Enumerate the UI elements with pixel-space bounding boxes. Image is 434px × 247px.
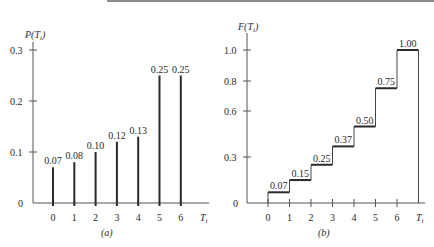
value-label: 0.25	[151, 64, 169, 75]
y-tick-label: 1.0	[224, 45, 237, 56]
x-tick-label: 0	[266, 212, 271, 223]
x-tick-label: 1	[287, 212, 292, 223]
value-label: 0.25	[313, 153, 331, 164]
figure: P(Ti) 0.30.20.1 0 0.070.080.100.120.130.…	[0, 0, 434, 247]
chart-a: P(Ti) 0.30.20.1 0 0.070.080.100.120.130.…	[10, 29, 209, 239]
x-tick-label: 0	[51, 212, 56, 223]
y-axis-title-b: F(Ti)	[237, 21, 259, 34]
value-label: 0.37	[335, 134, 353, 145]
x-tick-label: 5	[157, 212, 162, 223]
stems-a: 0.070.080.100.120.130.250.25	[44, 64, 189, 207]
value-label: 0.50	[356, 115, 374, 126]
x-tick-label: 4	[136, 212, 141, 223]
x-tick-label: 5	[373, 212, 378, 223]
panel-label-b: (b)	[318, 227, 330, 239]
y-zero-label-b: 0	[233, 198, 238, 209]
x-tick-label: 3	[114, 212, 119, 223]
x-tick-label: 2	[93, 212, 98, 223]
x-axis-title-b: Ti	[416, 212, 424, 225]
y-tick-label: 0.6	[224, 106, 237, 117]
y-axis-title-a: P(Ti)	[24, 29, 46, 42]
x-tick-label: 2	[309, 212, 314, 223]
chart-b: F(Ti) 1.00.80.60.3 0 0.070.150.250.370.5…	[224, 21, 425, 239]
value-label: 0.75	[378, 76, 396, 87]
value-label: 0.07	[270, 180, 288, 191]
y-tick-label: 0.2	[10, 96, 23, 107]
value-label: 0.15	[292, 168, 310, 179]
x-tick-labels-a: 0123456	[51, 212, 184, 223]
steps-b: 0.070.150.250.370.500.751.00	[268, 38, 419, 207]
x-tick-label: 3	[330, 212, 335, 223]
x-tick-label: 6	[178, 212, 183, 223]
x-tick-labels-b: 0123456	[266, 212, 400, 223]
y-zero-label-a: 0	[18, 198, 23, 209]
y-tick-label: 0.3	[224, 152, 237, 163]
value-label: 0.25	[172, 64, 190, 75]
y-tick-label: 0.3	[10, 45, 23, 56]
value-label: 0.10	[87, 140, 105, 151]
y-tick-label: 0.8	[224, 76, 237, 87]
x-tick-label: 1	[72, 212, 77, 223]
value-label: 0.07	[44, 155, 62, 166]
value-label: 0.13	[129, 125, 147, 136]
value-label: 1.00	[399, 38, 417, 49]
x-tick-label: 6	[395, 212, 400, 223]
panel-label-a: (a)	[101, 227, 113, 239]
value-label: 0.12	[108, 130, 126, 141]
x-tick-label: 4	[352, 212, 357, 223]
y-tick-label: 0.1	[10, 147, 23, 158]
value-label: 0.08	[66, 150, 84, 161]
x-axis-title-a: Ti	[200, 212, 208, 225]
